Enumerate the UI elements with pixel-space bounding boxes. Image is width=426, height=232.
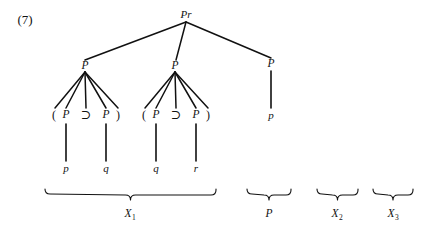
brace-1 [45,189,216,200]
token-middle-1: P [152,109,159,121]
token-middle-4: ) [206,109,210,121]
figure-container: (7) PrPPP(P⊃P)(P⊃P)pqqrpX1PX2X3 [0,0,426,232]
tree-edge-branch [175,72,196,108]
token-middle-0: ( [142,109,146,121]
brace-2 [247,189,291,200]
tree-edge-root [176,22,186,60]
edge-layer [55,22,271,161]
brace-label-4: X3 [388,208,399,220]
token-left-1: P [62,109,69,121]
brace-label-2: P [265,208,272,220]
brace-4 [373,189,413,200]
tree-edge-branch [55,72,85,108]
tree-node-p-3: P [267,58,274,70]
tree-edge-root [186,22,271,58]
tree-edge-branch [85,72,106,108]
token-left-3: P [102,109,109,121]
token-left-2: ⊃ [81,109,91,122]
tree-edge-branch [66,72,85,108]
brace-layer [45,189,413,200]
token-left-0: ( [52,109,56,121]
terminal-1: p [63,163,69,174]
tree-edge-root [85,22,186,60]
terminal-4: r [194,163,198,174]
tree-edge-branch [145,72,175,108]
subscript: 3 [395,213,399,222]
token-middle-2: ⊃ [171,109,181,122]
subscript: 2 [339,213,343,222]
terminal-2: q [103,163,109,174]
tree-edge-branch [156,72,175,108]
tree-node-p-1: P [81,60,88,72]
tree-node-p-2: P [171,60,178,72]
brace-3 [317,189,358,200]
token-left-4: ) [116,109,120,121]
terminal-3: q [153,163,159,174]
tree-edge-branch [175,72,208,108]
tree-edge-branch [85,72,118,108]
brace-label-1: X1 [125,208,136,220]
tree-edge-branch [85,72,86,108]
subscript: 1 [132,213,136,222]
tree-edge-branch [175,72,176,108]
brace-label-3: X2 [332,208,343,220]
tree-node-root: Pr [181,9,192,20]
token-middle-3: P [192,109,199,121]
terminal-5: p [268,110,274,121]
